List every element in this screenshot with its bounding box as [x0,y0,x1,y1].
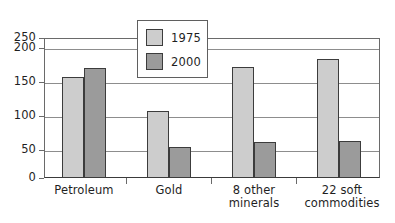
y-tick-label-0: 0 [0,172,36,184]
gridline-100 [45,117,379,118]
x-label-petroleum: Petroleum [44,184,124,197]
plot-area [44,38,380,178]
y-tick-mark-150 [39,82,44,83]
y-tick-mark-0 [39,178,44,179]
y-tick-mark-50 [39,150,44,151]
y-tick-label-100: 100 [0,110,36,122]
x-tick-mark-2 [211,178,212,184]
x-label-8-other-minerals-line-1: minerals [214,197,294,210]
x-label-petroleum-line-0: Petroleum [44,184,124,197]
y-tick-mark-250 [39,38,44,39]
x-label-22-soft-commodities-line-1: commodities [296,197,388,210]
legend-swatch-1975-icon [146,29,163,46]
y-tick-label-150: 150 [0,76,36,88]
y-tick-label-50: 50 [0,144,36,156]
x-tick-mark-1 [126,178,127,184]
y-tick-mark-100 [39,116,44,117]
y-tick-label-200: 200 [0,42,36,54]
gridline-200 [45,49,379,50]
legend-entry-2000: 2000 [146,53,201,70]
x-label-8-other-minerals: 8 other minerals [214,184,294,210]
legend-swatch-2000-icon [146,53,163,70]
legend: 1975 2000 [137,20,208,78]
x-label-22-soft-commodities: 22 soft commodities [296,184,388,210]
x-label-gold: Gold [129,184,209,197]
y-tick-mark-200 [39,48,44,49]
legend-label-2000: 2000 [171,56,201,68]
x-label-gold-line-0: Gold [129,184,209,197]
bar-chart: 250 200 150 100 50 0 Petroleum Gold 8 ot… [0,0,395,223]
legend-entry-1975: 1975 [146,29,201,46]
legend-label-1975: 1975 [171,32,201,44]
gridline-50 [45,151,379,152]
gridline-150 [45,83,379,84]
